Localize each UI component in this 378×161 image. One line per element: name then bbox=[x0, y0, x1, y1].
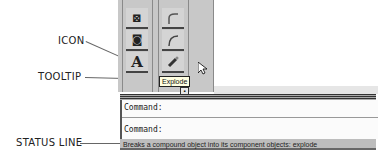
region-icon: ⊠ bbox=[132, 11, 142, 25]
callout-tooltip: TOOLTIP bbox=[38, 71, 81, 82]
callout-status-line: STATUS LINE bbox=[16, 137, 82, 148]
explode-icon bbox=[166, 55, 180, 69]
fillet-tool-button[interactable] bbox=[162, 8, 184, 29]
callout-icon: ICON bbox=[58, 35, 84, 46]
command-line-1: Command: bbox=[124, 103, 163, 112]
status-line: Breaks a compound object into its compon… bbox=[120, 139, 376, 150]
command-window[interactable]: Command: Command: bbox=[120, 100, 378, 139]
tooltip: Explode bbox=[159, 76, 190, 87]
command-line-2[interactable]: Command: bbox=[124, 125, 163, 134]
status-line-text: Breaks a compound object into its compon… bbox=[123, 141, 317, 148]
region-tool-button[interactable]: ⊠ bbox=[126, 8, 148, 29]
toolbar-right-column bbox=[162, 8, 188, 74]
tooltip-text: Explode bbox=[162, 78, 187, 85]
fillet-icon bbox=[167, 12, 179, 24]
camera-icon: ◙ bbox=[132, 33, 143, 46]
toolbar-empty-area bbox=[214, 86, 378, 94]
explode-tool-button[interactable] bbox=[162, 52, 184, 73]
mouse-cursor-icon bbox=[198, 62, 207, 75]
camera-tool-button[interactable]: ◙ bbox=[126, 30, 148, 51]
text-tool-button[interactable]: A bbox=[126, 52, 148, 73]
app-window: ⊠ ◙ A Explode ▪ Command: bbox=[118, 0, 378, 152]
toolbar-left-column: ⊠ ◙ A bbox=[126, 8, 152, 74]
arc-icon bbox=[167, 34, 179, 46]
text-icon: A bbox=[131, 53, 143, 71]
arc-tool-button[interactable] bbox=[162, 30, 184, 51]
